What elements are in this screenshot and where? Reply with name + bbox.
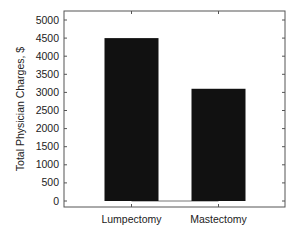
y-tick-label: 0 [53,195,59,207]
x-tick-label: Lumpectomy [101,213,162,225]
x-tick-label: Mastectomy [190,213,247,225]
y-tick-label: 1500 [36,140,60,152]
y-axis-ticks: 0500100015002000250030003500400045005000 [36,14,285,207]
y-tick-label: 500 [41,176,59,188]
bar-mastectomy [192,89,246,201]
bars [105,38,246,201]
y-tick-label: 5000 [36,14,60,26]
plot-frame [64,11,285,207]
y-tick-label: 3500 [36,68,60,80]
y-tick-label: 2500 [36,104,60,116]
bar-lumpectomy [105,38,159,201]
y-tick-label: 3000 [36,86,60,98]
y-tick-label: 4000 [36,50,60,62]
bar-chart: 0500100015002000250030003500400045005000… [0,0,293,236]
y-tick-label: 1000 [36,158,60,170]
y-tick-label: 2000 [36,122,60,134]
y-tick-label: 4500 [36,32,60,44]
